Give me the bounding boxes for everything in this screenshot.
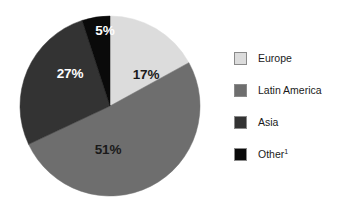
pie-plot-area: 17%51%27%5% — [0, 0, 222, 216]
legend-footnote-marker: 1 — [284, 148, 288, 155]
legend-item-label: Other1 — [258, 148, 288, 161]
pie-slice-label-other: 5% — [95, 23, 114, 38]
legend-item-label: Europe — [258, 52, 292, 65]
legend-item-asia[interactable]: Asia — [234, 114, 278, 131]
pie-chart-figure: 17%51%27%5% EuropeLatin AmericaAsiaOther… — [0, 0, 341, 216]
legend-swatch-icon — [234, 84, 247, 97]
legend-item-label: Latin America — [258, 84, 322, 97]
pie-svg: 17%51%27%5% — [0, 0, 222, 216]
pie-slice-label-asia: 27% — [57, 66, 84, 81]
legend-swatch-icon — [234, 116, 247, 129]
legend-swatch-icon — [234, 148, 247, 161]
legend-swatch-icon — [234, 52, 247, 65]
pie-slice-group — [20, 16, 200, 196]
chart-legend: EuropeLatin AmericaAsiaOther1 — [234, 44, 341, 174]
legend-item-label: Asia — [258, 116, 278, 129]
legend-item-europe[interactable]: Europe — [234, 50, 292, 67]
legend-item-other[interactable]: Other1 — [234, 146, 288, 163]
legend-item-latin-america[interactable]: Latin America — [234, 82, 322, 99]
pie-slice-label-latin-america: 51% — [95, 142, 122, 157]
pie-slice-label-europe: 17% — [133, 67, 160, 82]
